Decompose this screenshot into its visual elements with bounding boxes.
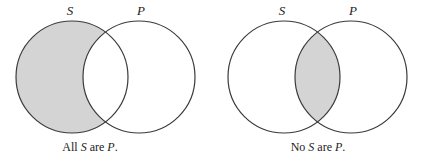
venn-all-s-are-p: S P All S are P. xyxy=(16,3,195,154)
caption-no-s-are-p: No S are P. xyxy=(291,140,346,154)
label-s: S xyxy=(67,3,74,18)
label-p: P xyxy=(348,3,357,18)
label-p: P xyxy=(136,3,145,18)
venn-no-s-are-p: S P No S are P. xyxy=(228,3,407,154)
caption-all-s-are-p: All S are P. xyxy=(62,140,117,154)
label-s: S xyxy=(279,3,286,18)
venn-diagrams-figure: S P All S are P. S P No S are P. xyxy=(0,0,425,157)
